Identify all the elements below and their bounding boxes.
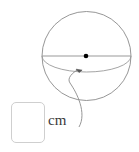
figure-root: cm (0, 0, 139, 152)
sphere-equator-arc (42, 56, 131, 72)
radius-leader-line (69, 70, 82, 127)
radius-answer-input[interactable] (11, 102, 45, 143)
unit-label: cm (48, 112, 66, 128)
sphere-center-dot (84, 54, 89, 59)
